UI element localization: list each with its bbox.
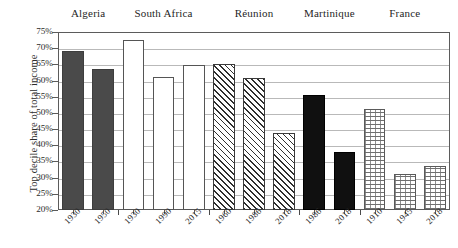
group-header-france: France [360,7,450,25]
bar-slot [299,32,329,210]
bar-martinique-2018 [334,152,356,210]
bar-series [58,32,450,210]
y-tick-label: 70% [0,42,58,52]
bar-réunion-1960 [213,64,235,210]
bar-martinique-1986 [303,95,325,210]
bar-chart: Top decile share of total income Algeria… [0,0,458,248]
bar-slot [239,32,269,210]
y-tick-label: 25% [0,188,58,198]
y-tick-label: 30% [0,172,58,182]
y-tick-label: 60% [0,75,58,85]
y-tick-label: 65% [0,58,58,68]
y-tick-label: 55% [0,91,58,101]
x-tick: 1986 [239,210,269,248]
group-header-algeria: Algeria [58,7,118,25]
bar-france-1910 [364,109,386,210]
bar-slot [269,32,299,210]
x-axis-ticks: 1930195019301990201519601986201819862018… [58,210,450,248]
bar-slot [88,32,118,210]
bar-slot [58,32,88,210]
bar-slot [209,32,239,210]
x-tick: 2015 [179,210,209,248]
group-separator-tick [118,210,119,215]
group-header-south-africa: South Africa [118,7,208,25]
x-tick: 1910 [360,210,390,248]
group-header-martinique: Martinique [299,7,359,25]
bar-south-africa-1930 [123,40,145,210]
bar-france-1945 [394,174,416,210]
bar-réunion-1986 [243,78,265,210]
bar-slot [420,32,450,210]
x-tick: 1950 [88,210,118,248]
x-tick: 1986 [299,210,329,248]
bar-slot [148,32,178,210]
x-tick: 1990 [148,210,178,248]
x-tick: 1930 [118,210,148,248]
x-tick: 2018 [420,210,450,248]
x-tick: 2018 [329,210,359,248]
group-separator-tick [299,210,300,215]
bar-algeria-1950 [92,69,114,210]
bar-slot [118,32,148,210]
y-tick-label: 20% [0,204,58,214]
x-tick: 2018 [269,210,299,248]
group-header-row: AlgeriaSouth AfricaRéunionMartiniqueFran… [58,7,450,25]
y-tick-label: 35% [0,155,58,165]
x-tick: 1945 [390,210,420,248]
y-tick-label: 75% [0,26,58,36]
bar-slot [390,32,420,210]
x-tick: 1930 [58,210,88,248]
y-tick-label: 50% [0,107,58,117]
group-header-réunion: Réunion [209,7,299,25]
group-separator-tick [209,210,210,215]
bar-slot [179,32,209,210]
bar-slot [329,32,359,210]
y-tick-label: 45% [0,123,58,133]
bar-algeria-1930 [62,51,84,210]
group-separator-tick [360,210,361,215]
y-tick-label: 40% [0,139,58,149]
bar-réunion-2018 [273,133,295,210]
bar-south-africa-1990 [153,77,175,210]
bar-slot [360,32,390,210]
bar-france-2018 [424,166,446,210]
bar-south-africa-2015 [183,65,205,210]
x-tick: 1960 [209,210,239,248]
